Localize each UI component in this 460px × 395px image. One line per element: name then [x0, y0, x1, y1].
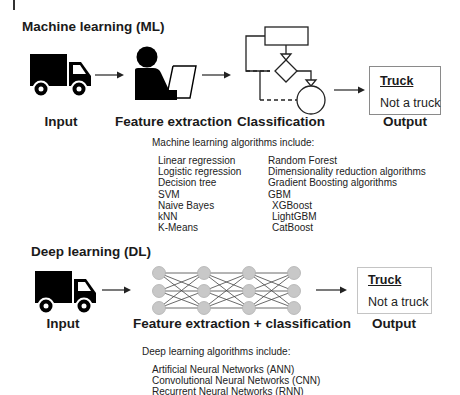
ml-output-label: Output	[380, 114, 430, 129]
flowchart-icon	[240, 24, 330, 116]
ml-feature-extraction-label: Feature extraction	[115, 114, 225, 129]
dl-feature-extraction-classification-label: Feature extraction + classification	[133, 316, 323, 331]
algorithm-item: kNN	[158, 211, 241, 222]
truck-icon	[35, 271, 97, 315]
output-truck-label: Truck	[368, 273, 401, 287]
algorithm-item: SVM	[158, 189, 241, 200]
ml-section-title: Machine learning (ML)	[22, 19, 165, 34]
algorithm-item: Gradient Boosting algorithms	[268, 177, 426, 188]
arrow-right-icon	[102, 285, 132, 295]
algorithm-item: LightGBM	[268, 211, 426, 222]
algorithm-item: Random Forest	[268, 155, 426, 166]
dl-algorithms-heading: Deep learning algorithms include:	[142, 346, 290, 357]
algorithm-item: Naive Bayes	[158, 200, 241, 211]
output-truck-label: Truck	[380, 74, 413, 88]
neural-network-icon	[150, 264, 305, 318]
algorithm-item: Recurrent Neural Networks (RNN)	[152, 386, 320, 395]
algorithm-item: CatBoost	[268, 222, 426, 233]
dl-output-label: Output	[369, 316, 419, 331]
ml-output-box: Truck Not a truck	[369, 66, 441, 115]
algorithm-item: XGBoost	[268, 200, 426, 211]
ml-algorithms-right-column: Random Forest Dimensionality reduction a…	[268, 155, 426, 233]
algorithm-item: Artificial Neural Networks (ANN)	[152, 364, 320, 375]
output-not-truck-label: Not a truck	[368, 295, 428, 309]
corner-divider	[13, 0, 15, 10]
ml-algorithms-left-column: Linear regression Logistic regression De…	[158, 155, 241, 233]
algorithm-item: GBM	[268, 189, 426, 200]
arrow-right-icon	[316, 285, 348, 295]
person-with-laptop-icon	[133, 46, 197, 102]
ml-input-label: Input	[38, 114, 84, 129]
algorithm-item: Convolutional Neural Networks (CNN)	[152, 375, 320, 386]
dl-algorithms-list: Artificial Neural Networks (ANN) Convolu…	[152, 364, 320, 395]
ml-algorithms-heading: Machine learning algorithms include:	[152, 137, 314, 148]
arrow-right-icon	[202, 70, 232, 80]
arrow-right-icon	[334, 85, 366, 95]
algorithm-item: Dimensionality reduction algorithms	[268, 166, 426, 177]
arrow-right-icon	[95, 70, 125, 80]
algorithm-item: K-Means	[158, 222, 241, 233]
algorithm-item: Decision tree	[158, 177, 241, 188]
ml-classification-label: Classification	[236, 114, 326, 129]
dl-section-title: Deep learning (DL)	[31, 244, 151, 259]
algorithm-item: Logistic regression	[158, 166, 241, 177]
truck-icon	[30, 54, 92, 98]
output-not-truck-label: Not a truck	[380, 96, 440, 110]
dl-output-box: Truck Not a truck	[357, 267, 432, 314]
algorithm-item: Linear regression	[158, 155, 241, 166]
dl-input-label: Input	[40, 316, 86, 331]
